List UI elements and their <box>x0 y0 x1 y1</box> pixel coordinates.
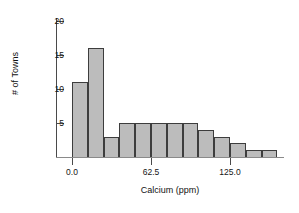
histogram-bar <box>167 123 183 157</box>
y-axis-title: # of Towns <box>10 39 21 109</box>
histogram-bar <box>151 123 167 157</box>
histogram-bar <box>104 137 120 157</box>
histogram-bar <box>214 137 230 157</box>
histogram-bar <box>183 123 199 157</box>
x-axis-line <box>56 157 284 158</box>
x-tick-label: 125.0 <box>207 167 253 177</box>
y-tick-label: 15 <box>42 51 64 60</box>
y-tick-label: 5 <box>42 119 64 128</box>
plot-area: 5101520 0.062.5125.0 <box>0 0 299 213</box>
histogram-bar <box>246 150 262 157</box>
histogram-bar <box>135 123 151 157</box>
histogram-bar <box>88 48 104 157</box>
x-tick-mark <box>72 158 73 165</box>
x-tick-mark <box>151 158 152 165</box>
histogram-figure: 5101520 0.062.5125.0 # of Towns Calcium … <box>0 0 299 213</box>
y-tick-label: 20 <box>42 17 64 26</box>
x-tick-label: 0.0 <box>49 167 95 177</box>
x-axis-title: Calcium (ppm) <box>56 185 284 196</box>
histogram-bar <box>72 82 88 157</box>
histogram-bar <box>262 150 278 157</box>
histogram-bar <box>119 123 135 157</box>
histogram-bar <box>198 130 214 157</box>
x-tick-label: 62.5 <box>128 167 174 177</box>
x-tick-mark <box>230 158 231 165</box>
histogram-bar <box>230 143 246 157</box>
y-tick-label: 10 <box>42 85 64 94</box>
